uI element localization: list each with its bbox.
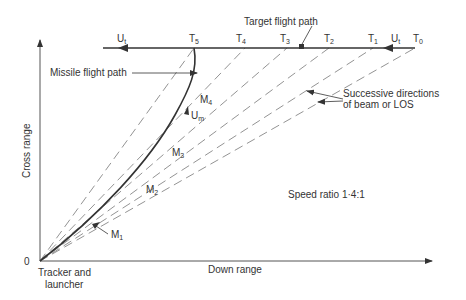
x-axis-label: Down range <box>208 264 262 275</box>
m3-label: M3 <box>172 147 184 159</box>
t1-label: T1 <box>368 33 378 45</box>
t3-label: T3 <box>280 33 290 45</box>
speed-ratio-label: Speed ratio 1·4:1 <box>288 189 365 200</box>
target-velocity-arrow-left <box>118 44 128 52</box>
origin-caption-line2: launcher <box>45 279 84 290</box>
los-line-t0 <box>40 48 415 261</box>
t4-label: T4 <box>236 33 246 45</box>
los-line-t3 <box>40 48 287 261</box>
origin-caption-line1: Tracker and <box>38 267 91 278</box>
beam-label-line1: Successive directions <box>343 88 439 99</box>
missile-flight-path-label: Missile flight path <box>50 67 127 78</box>
los-line-t4 <box>40 48 245 261</box>
missile-point-labels: M1 M2 M3 M4 Um <box>111 94 212 241</box>
ut-right-label: Ut <box>391 33 400 45</box>
target-point-labels: Ut T5 T4 T3 T2 T1 Ut T0 <box>117 33 423 45</box>
y-axis-label: Cross range <box>21 123 32 178</box>
beam-label-line2: of beam or LOS <box>343 99 414 110</box>
los-line-t1 <box>40 48 373 261</box>
target-flight-path-label: Target flight path <box>244 16 318 27</box>
m1-leader <box>96 226 108 234</box>
target-velocity-arrow-right <box>383 44 393 52</box>
t5-label: T5 <box>189 33 199 45</box>
ut-left-label: Ut <box>117 33 126 45</box>
origin-label: 0 <box>24 256 30 267</box>
um-label: Um <box>191 110 204 122</box>
m2-label: M2 <box>146 184 158 196</box>
m4-label: M4 <box>200 94 212 106</box>
m1-label: M1 <box>111 229 123 241</box>
los-line-t2 <box>40 48 329 261</box>
target-path-leader <box>301 26 312 46</box>
t2-label: T2 <box>324 33 334 45</box>
t0-label: T0 <box>413 33 423 45</box>
los-lines <box>40 48 415 261</box>
beam-rider-diagram: Target flight path Missile flight path S… <box>0 0 466 300</box>
